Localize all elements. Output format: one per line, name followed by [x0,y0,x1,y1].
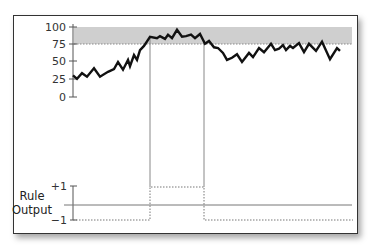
rule-output-label-line2: Output [12,203,52,217]
rule-output-step [73,187,353,220]
y-tick-50: 50 [52,55,66,68]
rule-output-label-line1: Rule [19,189,44,203]
y-tick-0: 0 [59,91,66,104]
rule-tick-minus-label: −1 [51,214,67,227]
chart-canvas: 100 75 50 25 0 +1 −1 Rule Output [0,0,371,247]
threshold-band [74,27,352,44]
y-tick-75: 75 [52,38,66,51]
rule-tick-plus-label: +1 [51,180,67,193]
y-tick-100: 100 [45,21,66,34]
y-tick-25: 25 [52,73,66,86]
